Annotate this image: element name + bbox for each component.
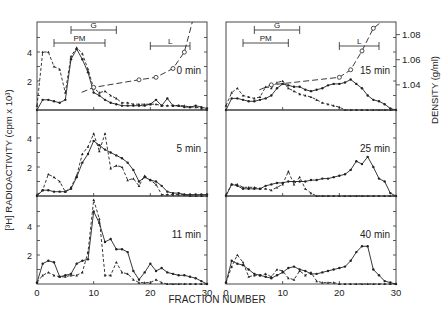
y-tick-label: 2 [27, 251, 32, 261]
x-tick-label: 30 [391, 287, 402, 298]
x-tick-label: 20 [145, 287, 156, 298]
x-tick-label: 10 [277, 287, 288, 298]
series-solid [226, 80, 396, 111]
series-solid [226, 246, 396, 284]
density-tick-label: 1.08 [402, 29, 421, 40]
figure: 240 minGPML15 minGPML1.041.061.08245 min… [0, 0, 444, 321]
y-tick-label: 2 [27, 163, 32, 173]
panel-title: 25 min [360, 143, 390, 154]
y-tick-label: 4 [27, 222, 32, 232]
panel-title: 15 min [360, 65, 390, 76]
density-tick-label: 1.04 [402, 79, 421, 90]
axis-labels: FRACTION NUMBER [³H] RADIOACTIVITY (cpm … [3, 56, 440, 305]
series-solid [226, 157, 396, 196]
y-axis-right-label: DENSITY (g/ml) [429, 56, 440, 124]
density-curve [259, 22, 381, 90]
x-tick-label: 0 [34, 287, 39, 298]
panels-group: 240 minGPML15 minGPML1.041.061.08245 min… [27, 21, 421, 298]
x-axis-label: FRACTION NUMBER [168, 294, 265, 305]
band-label-L: L [357, 37, 362, 46]
band-label-PM: PM [74, 34, 86, 43]
panel-middle-right: 25 min [225, 110, 398, 197]
panel-top-right: 15 minGPML1.041.061.08 [225, 21, 421, 111]
panel-title: 5 min [177, 143, 201, 154]
y-tick-label: 2 [27, 77, 32, 87]
y-tick-label: 4 [27, 48, 32, 58]
y-axis-left-label: [³H] RADIOACTIVITY (cpm x 10³) [3, 89, 14, 230]
panel-title: 11 min [172, 229, 201, 240]
panel-middle-left: 245 min [27, 110, 208, 197]
panel-top-left: 240 minGPML [27, 21, 208, 111]
density-curve [82, 22, 193, 92]
series-dashed [37, 48, 207, 110]
band-label-PM: PM [260, 34, 272, 43]
panel-title: 40 min [360, 229, 390, 240]
panel-title: 0 min [177, 65, 201, 76]
y-tick-label: 4 [27, 134, 32, 144]
panel-bottom-right: 40 min0102030 [223, 196, 401, 298]
band-label-L: L [168, 37, 173, 46]
band-label-G: G [91, 21, 97, 30]
x-tick-label: 10 [88, 287, 99, 298]
panel-bottom-left: 2411 min0102030 [27, 196, 212, 298]
band-label-G: G [274, 21, 280, 30]
density-tick-label: 1.06 [402, 54, 421, 65]
x-tick-label: 20 [334, 287, 345, 298]
series-dashed [226, 81, 396, 110]
